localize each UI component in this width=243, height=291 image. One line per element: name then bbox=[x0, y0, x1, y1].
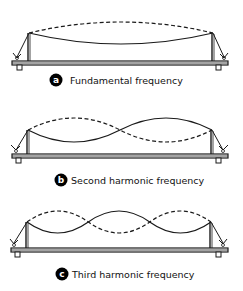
badge-letter: b bbox=[58, 175, 65, 185]
wave-solid bbox=[29, 33, 213, 44]
caption-fundamental: a Fundamental frequency bbox=[50, 74, 184, 87]
wave-solid bbox=[27, 211, 211, 233]
caption-text: Second harmonic frequency bbox=[71, 175, 205, 186]
caption-third-harmonic: c Third harmonic frequency bbox=[56, 268, 195, 281]
badge-letter: c bbox=[59, 269, 64, 279]
badge-letter: a bbox=[53, 75, 59, 85]
left-foot bbox=[15, 252, 20, 257]
caption-text: Fundamental frequency bbox=[70, 75, 183, 86]
left-peg-icon bbox=[13, 53, 21, 58]
harmonics-diagram: a Fundamental frequency b Second bbox=[0, 0, 243, 291]
right-peg-icon bbox=[220, 53, 228, 58]
panel-second-harmonic: b Second harmonic frequency bbox=[11, 118, 228, 187]
wave-dashed bbox=[29, 22, 213, 33]
string-apparatus bbox=[10, 211, 228, 257]
string-apparatus bbox=[12, 22, 228, 70]
panel-third-harmonic: c Third harmonic frequency bbox=[10, 211, 228, 281]
left-foot bbox=[16, 158, 21, 163]
wave-solid bbox=[28, 118, 212, 142]
string-apparatus bbox=[11, 118, 228, 163]
caption-second-harmonic: b Second harmonic frequency bbox=[55, 174, 205, 187]
right-foot bbox=[216, 158, 221, 163]
right-foot bbox=[216, 65, 221, 70]
wave-dashed bbox=[27, 211, 211, 233]
caption-text: Third harmonic frequency bbox=[71, 269, 195, 280]
left-foot bbox=[17, 65, 22, 70]
panel-fundamental: a Fundamental frequency bbox=[12, 22, 228, 87]
right-foot bbox=[216, 252, 221, 257]
